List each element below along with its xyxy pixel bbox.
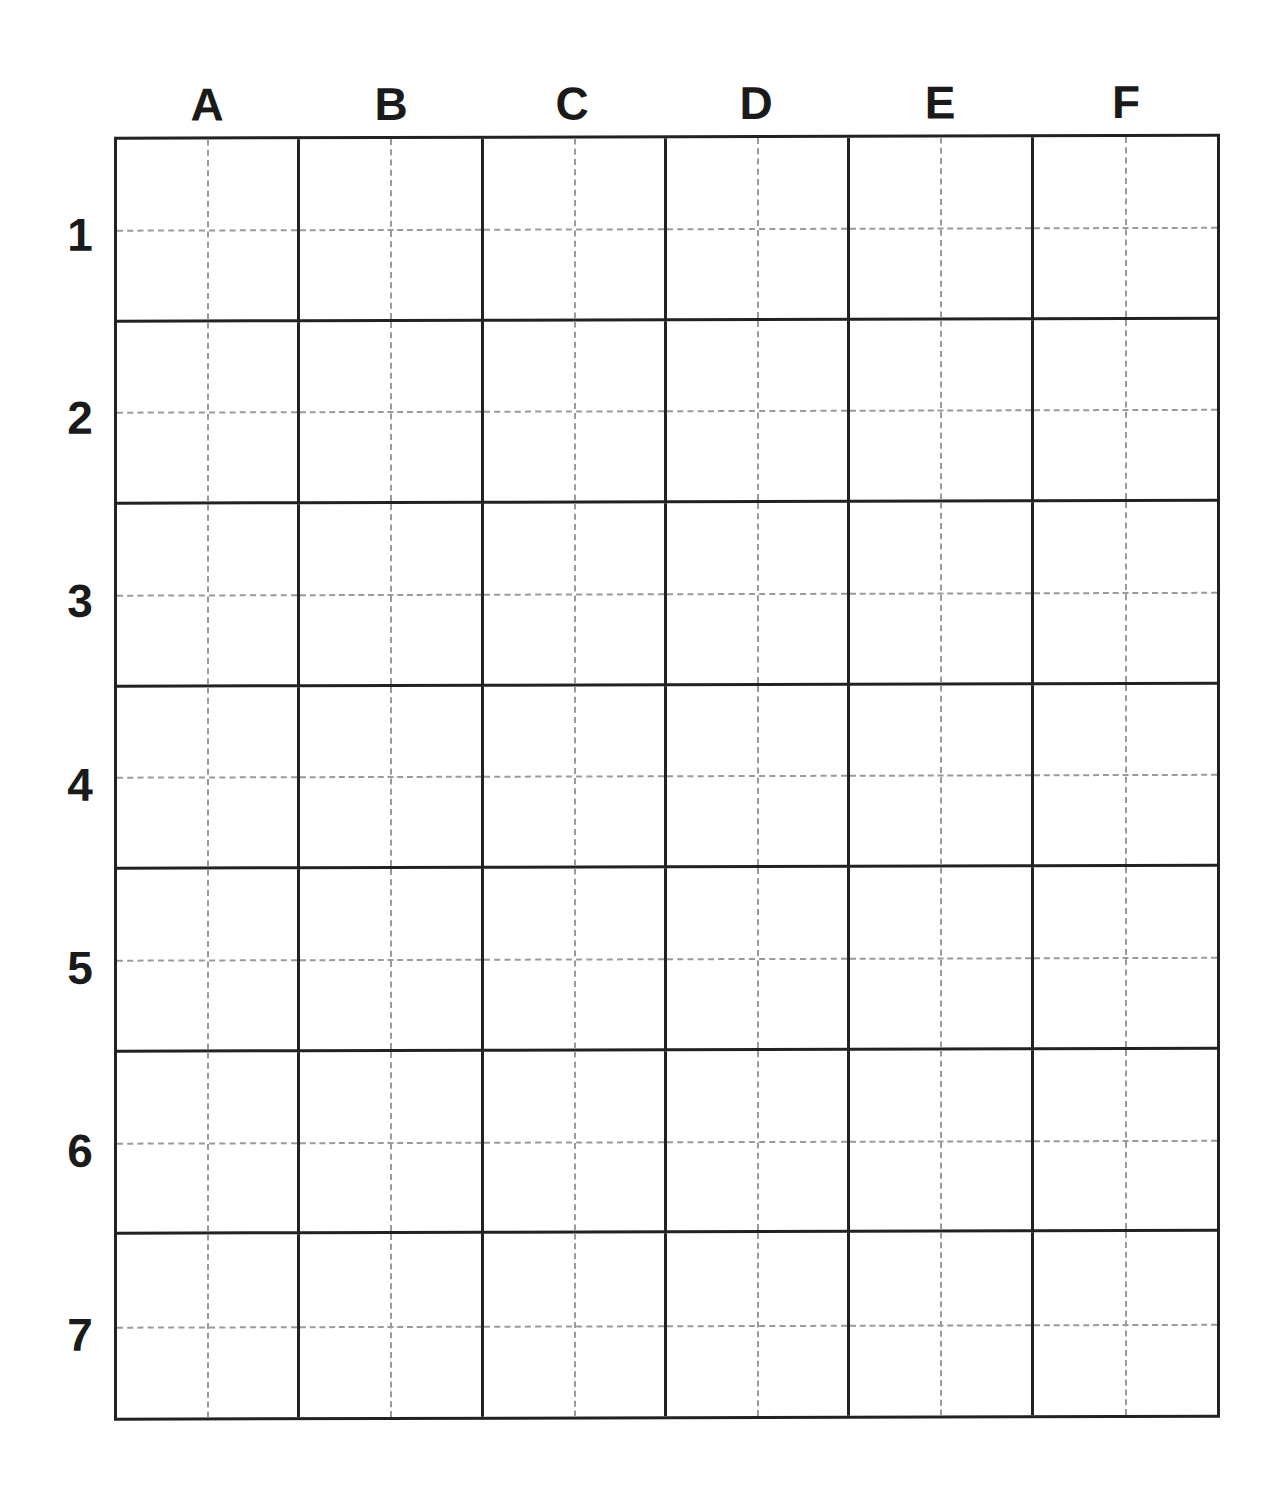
grid bbox=[114, 134, 1220, 1421]
horizontal-guide-line bbox=[850, 957, 1030, 959]
horizontal-guide-line bbox=[117, 959, 297, 961]
grid-cell-c1 bbox=[484, 138, 667, 321]
grid-cell-e4 bbox=[850, 685, 1033, 868]
horizontal-guide-line bbox=[484, 1325, 664, 1327]
grid-cell-d2 bbox=[667, 320, 850, 503]
grid-cell-e7 bbox=[850, 1233, 1033, 1416]
horizontal-guide-line bbox=[117, 777, 297, 779]
horizontal-guide-line bbox=[667, 410, 847, 412]
grid-cell-d5 bbox=[667, 868, 850, 1051]
horizontal-guide-line bbox=[1034, 1139, 1217, 1141]
column-label-d: D bbox=[726, 78, 786, 128]
horizontal-guide-line bbox=[1034, 774, 1217, 776]
horizontal-guide-line bbox=[484, 958, 664, 960]
column-label-e: E bbox=[910, 77, 970, 127]
horizontal-guide-line bbox=[300, 1141, 480, 1143]
row-label-7: 7 bbox=[55, 1310, 105, 1360]
grid-cell-e5 bbox=[850, 868, 1033, 1051]
grid-cell-f2 bbox=[1034, 319, 1217, 502]
grid-cell-a3 bbox=[117, 504, 300, 687]
horizontal-guide-line bbox=[850, 410, 1030, 412]
grid-cell-a2 bbox=[117, 322, 300, 505]
grid-cell-b2 bbox=[300, 321, 483, 504]
grid-cell-c7 bbox=[484, 1234, 667, 1417]
horizontal-guide-line bbox=[850, 1324, 1030, 1326]
grid-cell-f5 bbox=[1034, 867, 1217, 1050]
grid-cell-f1 bbox=[1034, 137, 1217, 320]
grid-cell-c4 bbox=[484, 686, 667, 869]
horizontal-guide-line bbox=[850, 1140, 1030, 1142]
horizontal-guide-line bbox=[850, 775, 1030, 777]
grid-cell-a6 bbox=[117, 1052, 300, 1235]
grid-cell-e3 bbox=[850, 502, 1033, 685]
horizontal-guide-line bbox=[667, 593, 847, 595]
horizontal-guide-line bbox=[667, 228, 847, 230]
grid-cell-e1 bbox=[850, 137, 1033, 320]
grid-cell-a4 bbox=[117, 687, 300, 870]
row-label-5: 5 bbox=[55, 943, 105, 993]
horizontal-guide-line bbox=[117, 229, 297, 231]
horizontal-guide-line bbox=[1034, 409, 1217, 411]
horizontal-guide-line bbox=[667, 1140, 847, 1142]
horizontal-guide-line bbox=[484, 776, 664, 778]
grid-cell-f7 bbox=[1034, 1232, 1217, 1415]
horizontal-guide-line bbox=[1034, 592, 1217, 594]
horizontal-guide-line bbox=[300, 594, 480, 596]
grid-cell-a1 bbox=[117, 139, 300, 322]
grid-cell-d6 bbox=[667, 1051, 850, 1234]
grid-cell-e2 bbox=[850, 320, 1033, 503]
horizontal-guide-line bbox=[300, 1325, 480, 1327]
grid-cell-b1 bbox=[300, 139, 483, 322]
horizontal-guide-line bbox=[850, 592, 1030, 594]
grid-cell-c5 bbox=[484, 869, 667, 1052]
column-label-b: B bbox=[361, 79, 421, 129]
grid-cell-d1 bbox=[667, 138, 850, 321]
horizontal-guide-line bbox=[484, 228, 664, 230]
horizontal-guide-line bbox=[1034, 1324, 1217, 1326]
horizontal-guide-line bbox=[117, 1326, 297, 1328]
grid-cell-a7 bbox=[117, 1235, 300, 1418]
grid-cell-d4 bbox=[667, 685, 850, 868]
grid-cell-d3 bbox=[667, 503, 850, 686]
grid-cell-b7 bbox=[300, 1234, 483, 1417]
horizontal-guide-line bbox=[300, 229, 480, 231]
grid-cell-b4 bbox=[300, 686, 483, 869]
grid-diagram: A B C D E F 1 2 3 4 5 6 7 bbox=[0, 0, 1288, 1507]
grid-cell-d7 bbox=[667, 1233, 850, 1416]
horizontal-guide-line bbox=[667, 1324, 847, 1326]
horizontal-guide-line bbox=[117, 412, 297, 414]
grid-cell-f6 bbox=[1034, 1050, 1217, 1233]
horizontal-guide-line bbox=[667, 958, 847, 960]
grid-cell-b3 bbox=[300, 504, 483, 687]
grid-cell-c2 bbox=[484, 321, 667, 504]
horizontal-guide-line bbox=[300, 411, 480, 413]
horizontal-guide-line bbox=[300, 959, 480, 961]
grid-cell-a5 bbox=[117, 869, 300, 1052]
grid-cell-c3 bbox=[484, 503, 667, 686]
grid-cell-b6 bbox=[300, 1052, 483, 1235]
column-label-c: C bbox=[542, 78, 602, 128]
horizontal-guide-line bbox=[667, 775, 847, 777]
horizontal-guide-line bbox=[484, 593, 664, 595]
horizontal-guide-line bbox=[117, 1142, 297, 1144]
horizontal-guide-line bbox=[850, 227, 1030, 229]
column-label-f: F bbox=[1096, 77, 1156, 127]
grid-cell-f3 bbox=[1034, 502, 1217, 685]
column-label-a: A bbox=[177, 79, 237, 129]
row-label-6: 6 bbox=[55, 1126, 105, 1176]
grid-cell-b5 bbox=[300, 869, 483, 1052]
row-label-2: 2 bbox=[55, 393, 105, 443]
row-label-3: 3 bbox=[55, 576, 105, 626]
horizontal-guide-line bbox=[1034, 957, 1217, 959]
grid-cell-f4 bbox=[1034, 685, 1217, 868]
horizontal-guide-line bbox=[300, 776, 480, 778]
grid-cell-c6 bbox=[484, 1051, 667, 1234]
horizontal-guide-line bbox=[117, 594, 297, 596]
horizontal-guide-line bbox=[484, 1141, 664, 1143]
horizontal-guide-line bbox=[484, 411, 664, 413]
horizontal-guide-line bbox=[1034, 227, 1217, 229]
grid-cell-e6 bbox=[850, 1050, 1033, 1233]
row-label-1: 1 bbox=[55, 210, 105, 260]
row-label-4: 4 bbox=[55, 760, 105, 810]
